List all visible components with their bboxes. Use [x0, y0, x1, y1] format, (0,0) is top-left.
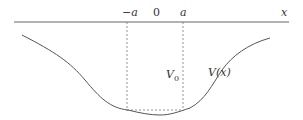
tick-label-zero: 0: [153, 6, 160, 19]
potential-curve: [22, 35, 270, 115]
tick-label-a: a: [180, 6, 187, 19]
potential-well-diagram: −a 0 a x V 0 V(x): [0, 0, 303, 120]
tick-label-minus-a: −a: [122, 6, 138, 19]
well-depth-subscript: 0: [174, 74, 179, 83]
diagram-canvas: −a 0 a x V 0 V(x): [0, 0, 303, 120]
axis-label-x: x: [281, 6, 288, 19]
curve-label: V(x): [208, 66, 231, 79]
